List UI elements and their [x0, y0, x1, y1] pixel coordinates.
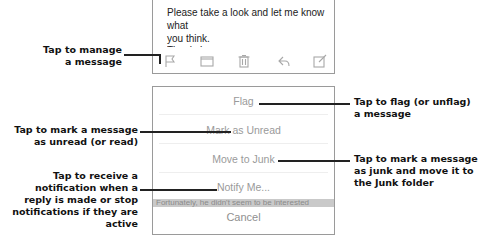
divider: [159, 143, 328, 144]
email-view: Please take a look and let me know what …: [152, 0, 335, 74]
callout-text: reply is made or stop: [0, 194, 138, 206]
divider: [159, 172, 328, 173]
reply-icon[interactable]: [277, 53, 291, 67]
callout-text: Tap to mark a message: [354, 153, 482, 165]
callout-manage: Tap to managea message: [0, 44, 122, 68]
callout-text: a message: [354, 108, 482, 120]
callout-text: Tap to manage: [0, 44, 122, 56]
callout-flag: Tap to flag (or unflag)a message: [354, 96, 482, 120]
callout-text: Tap to receive a: [0, 170, 138, 182]
callout-text: Tap to mark a message: [0, 124, 138, 136]
divider: [159, 114, 328, 115]
callout-notify: Tap to receive anotification when areply…: [0, 170, 138, 230]
callout-junk: Tap to mark a messageas junk and move it…: [354, 153, 482, 189]
callout-line-manage: [124, 54, 160, 56]
background-email-text: Fortunately, he didn't seem to be intere…: [153, 199, 334, 207]
callout-line-notify: [140, 189, 217, 191]
callout-text: as unread (or read): [0, 136, 138, 148]
compose-icon[interactable]: [313, 53, 327, 67]
callout-text: Tap to flag (or unflag): [354, 96, 482, 108]
callout-text: notification when a: [0, 182, 138, 194]
email-body: Please take a look and let me know what …: [167, 6, 332, 45]
trash-icon[interactable]: [237, 53, 251, 67]
mark-unread-option[interactable]: Mark as Unread: [153, 124, 334, 136]
notify-me-option[interactable]: Notify Me...: [153, 181, 334, 193]
callout-unread: Tap to mark a messageas unread (or read): [0, 124, 138, 148]
flag-icon[interactable]: [163, 53, 177, 67]
callout-text: the Junk folder: [354, 177, 482, 189]
callout-text: as junk and move it to: [354, 165, 482, 177]
callout-text: active: [0, 218, 138, 230]
callout-text: notifications if they are: [0, 206, 138, 218]
email-body-line: Please take a look and let me know what: [167, 6, 332, 32]
cancel-button[interactable]: Cancel: [153, 211, 334, 223]
folder-icon[interactable]: [200, 53, 214, 67]
flag-option[interactable]: Flag: [153, 95, 334, 107]
callout-line-unread: [140, 131, 231, 133]
callout-line-junk: [278, 160, 350, 162]
callout-text: a message: [0, 56, 122, 68]
move-to-junk-option[interactable]: Move to Junk: [153, 153, 334, 165]
callout-line-manage-drop: [159, 54, 161, 64]
callout-line-flag: [259, 103, 350, 105]
message-toolbar: [153, 47, 334, 73]
